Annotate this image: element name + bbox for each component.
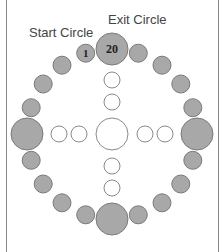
inner-circle <box>104 180 120 196</box>
circle-number: 20 <box>106 42 118 56</box>
ring-circle <box>53 194 71 212</box>
ring-circle-large <box>181 118 213 150</box>
center-circle <box>96 118 128 150</box>
ring-circle <box>153 56 171 74</box>
ring-circle <box>53 56 71 74</box>
inner-circle <box>157 126 173 142</box>
ring-circle <box>172 175 190 193</box>
ring-circle <box>184 99 202 117</box>
start-circle-label: Start Circle <box>29 25 93 40</box>
ring-circle <box>153 194 171 212</box>
ring-circle <box>77 206 95 224</box>
ring-circle <box>129 44 147 62</box>
ring-circle-large <box>96 203 128 235</box>
ring-circle <box>129 206 147 224</box>
inner-circle <box>104 158 120 174</box>
ring-circle <box>34 175 52 193</box>
inner-circle <box>104 72 120 88</box>
ring-circle <box>22 99 40 117</box>
exit-circle-label: Exit Circle <box>108 12 167 27</box>
inner-circle <box>71 126 87 142</box>
ring-circle <box>34 75 52 93</box>
inner-circle <box>137 126 153 142</box>
inner-circle <box>51 126 67 142</box>
inner-circle <box>104 94 120 110</box>
circle-number: 1 <box>83 47 89 59</box>
ring-circle <box>22 151 40 169</box>
ring-circle <box>172 75 190 93</box>
ring-circle-large <box>11 118 43 150</box>
ring-circle <box>184 151 202 169</box>
